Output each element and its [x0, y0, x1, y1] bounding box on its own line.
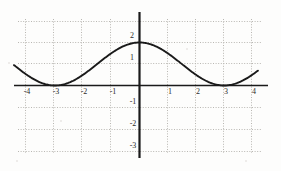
x-tick-label--1: -1 — [110, 88, 116, 96]
x-tick-label-2: 2 — [196, 88, 200, 96]
y-tick-label-1: 1 — [130, 54, 134, 62]
y-tick-label--1: -1 — [130, 98, 136, 106]
scan-speck — [186, 48, 188, 50]
graph-figure: -4 -3 -2 -1 1 2 3 4 2 1 -1 -2 -3 — [0, 0, 281, 171]
x-tick-label--4: -4 — [24, 88, 30, 96]
scan-speck — [16, 160, 18, 162]
scan-speck — [60, 120, 62, 122]
y-tick-label-2: 2 — [130, 32, 134, 40]
x-tick-label--2: -2 — [81, 88, 87, 96]
x-tick-label--3: -3 — [53, 88, 59, 96]
plot-canvas — [0, 0, 281, 171]
y-tick-label--2: -2 — [130, 120, 136, 128]
x-tick-label-3: 3 — [224, 88, 228, 96]
x-tick-label-4: 4 — [252, 88, 256, 96]
y-tick-label--3: -3 — [130, 142, 136, 150]
scan-speck — [245, 160, 247, 162]
x-tick-label-1: 1 — [168, 88, 172, 96]
scan-speck — [8, 62, 10, 64]
